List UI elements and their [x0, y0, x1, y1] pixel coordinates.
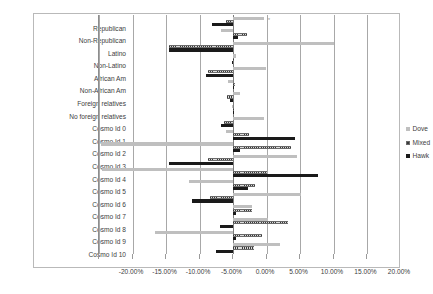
legend-item-dove: Dove: [406, 125, 433, 133]
bar-hawk: [232, 61, 233, 64]
bar-group: [99, 229, 366, 242]
bar-hawk: [169, 48, 233, 51]
bar-group: [99, 204, 366, 217]
x-tickmark: [266, 254, 267, 259]
bar-hawk: [233, 111, 234, 114]
x-tick-label: -10.00%: [186, 268, 211, 276]
bar-group: [99, 166, 366, 179]
bar-dove: [233, 92, 240, 95]
bar-hawk: [233, 137, 295, 140]
x-tickmark: [199, 254, 200, 259]
bar-hawk: [192, 199, 233, 202]
x-tick-label: 20.00%: [388, 268, 410, 276]
x-tickmark: [132, 254, 133, 259]
bar-hawk: [169, 162, 233, 165]
bar-group: [99, 153, 366, 166]
x-tick-label: 15.00%: [354, 268, 376, 276]
bar-dove: [189, 180, 233, 183]
chart-legend: Dove Mixed Hawk: [406, 125, 433, 166]
gridline-0.2: [367, 15, 368, 254]
bar-rows: **: [99, 15, 366, 254]
bar-dove: [233, 193, 301, 196]
bar-dove: [101, 142, 233, 145]
plot-area: **: [98, 15, 366, 254]
bar-dove: [233, 42, 334, 45]
bar-chart: RepublicanNon-RepublicanLatinoNon-Latino…: [0, 0, 433, 294]
legend-swatch-mixed-icon: [406, 141, 410, 145]
bar-hawk: [221, 124, 233, 127]
bar-dove: [233, 67, 266, 70]
bar-group: [99, 179, 366, 192]
x-tick-label: -15.00%: [152, 268, 177, 276]
x-tickmark: [232, 254, 233, 259]
significance-marker: *: [268, 18, 270, 23]
bar-dove: [233, 17, 264, 20]
x-tickmark: [366, 254, 367, 259]
bar-group: [99, 116, 366, 129]
bar-group: [99, 90, 366, 103]
legend-label-mixed: Mixed: [413, 139, 431, 147]
bar-dove: [102, 168, 233, 171]
bar-dove: [221, 29, 233, 32]
bar-hawk: [233, 174, 318, 177]
bar-mixed: [233, 221, 288, 224]
x-tick-label: 0.00%: [256, 268, 275, 276]
bar-dove: [233, 117, 264, 120]
bar-group: [99, 40, 366, 53]
bar-hawk: [212, 23, 233, 26]
significance-marker: *: [101, 168, 103, 173]
bar-group: [99, 53, 366, 66]
bar-dove: [226, 130, 233, 133]
bar-mixed: [233, 146, 291, 149]
bar-hawk: [216, 250, 233, 253]
bar-hawk: [233, 36, 238, 39]
x-tick-label: 5.00%: [289, 268, 308, 276]
bar-group: [99, 241, 366, 254]
bar-group: [99, 28, 366, 41]
bar-mixed: [233, 234, 262, 237]
bar-hawk: [233, 187, 248, 190]
bar-group: [99, 15, 366, 28]
x-axis-tick-labels: -20.00%-15.00%-10.00%-5.00%0.00%5.00%10.…: [131, 268, 401, 282]
bar-hawk: [233, 86, 234, 89]
legend-swatch-dove-icon: [406, 127, 410, 131]
x-tick-label: 10.00%: [321, 268, 343, 276]
bar-group: [99, 78, 366, 91]
bar-dove: [233, 155, 297, 158]
bar-mixed: [233, 58, 234, 61]
x-tickmark: [165, 254, 166, 259]
bar-group: [99, 65, 366, 78]
legend-item-mixed: Mixed: [406, 139, 433, 147]
bar-group: [99, 216, 366, 229]
bar-group: [99, 141, 366, 154]
bar-hawk: [233, 149, 240, 152]
bar-hawk: [206, 74, 233, 77]
bar-group: [99, 191, 366, 204]
bar-dove: [155, 231, 233, 234]
x-tickmark: [98, 254, 99, 259]
bar-hawk: [220, 225, 233, 228]
bar-group: [99, 103, 366, 116]
bar-group: [99, 128, 366, 141]
x-tick-label: -5.00%: [221, 268, 242, 276]
legend-swatch-hawk-icon: [406, 154, 410, 158]
x-tickmark: [299, 254, 300, 259]
legend-label-dove: Dove: [413, 125, 428, 133]
legend-label-hawk: Hawk: [413, 152, 430, 160]
bar-hawk: [233, 237, 236, 240]
x-tickmark: [333, 254, 334, 259]
bar-mixed: [233, 246, 254, 249]
bar-hawk: [230, 99, 233, 102]
legend-item-hawk: Hawk: [406, 152, 433, 160]
x-tick-label: -20.00%: [119, 268, 144, 276]
bar-hawk: [233, 212, 236, 215]
